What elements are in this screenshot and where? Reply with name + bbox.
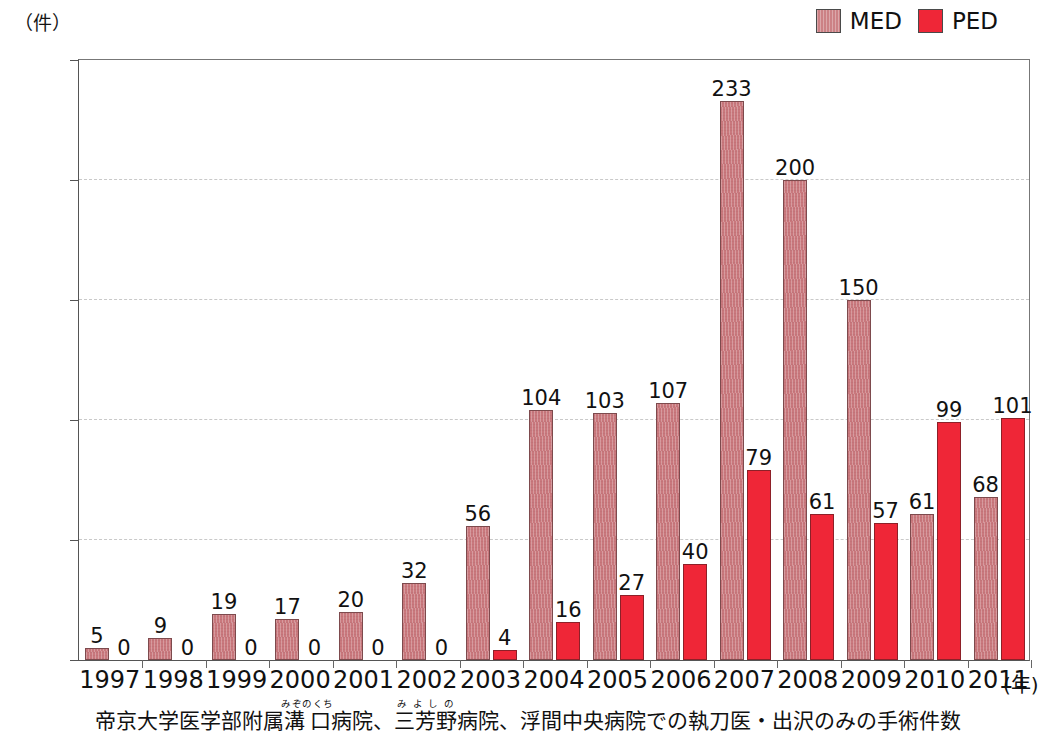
- bar-value-label: 150: [839, 278, 879, 299]
- bar-value-label: 27: [618, 573, 645, 594]
- bar-med: 9: [148, 638, 172, 660]
- bar-ped: 79: [747, 470, 771, 660]
- bar-group: 10416: [523, 60, 586, 660]
- bar-group: 10740: [650, 60, 713, 660]
- chart-legend: MED PED: [816, 9, 998, 33]
- x-axis-tick-label: 2000: [268, 666, 331, 694]
- caption-ruby-base-2: 三芳野: [394, 709, 457, 733]
- bar-med: 68: [974, 497, 998, 660]
- y-axis-tick-mark: [70, 60, 79, 61]
- x-axis-unit-label: (年): [1003, 669, 1039, 698]
- bar-med: 104: [529, 410, 553, 660]
- chart-caption: 帝京大学医学部附属溝口みぞのくち病院、三芳野みよしの病院、浮間中央病院での執刀医…: [0, 698, 1056, 734]
- x-axis-tick-label: 2005: [586, 666, 649, 694]
- x-axis-tick-label: 2003: [459, 666, 522, 694]
- bar-group: 15057: [841, 60, 904, 660]
- bar-value-label: 56: [464, 504, 491, 525]
- bar-value-label: 16: [555, 600, 582, 621]
- x-axis-tick-label: 1999: [205, 666, 268, 694]
- bar-value-label: 17: [274, 597, 301, 618]
- y-axis-tick-mark: [70, 540, 79, 541]
- caption-ruby-text-2: みよしの: [394, 698, 457, 709]
- bar-value-label: 200: [775, 158, 815, 179]
- x-axis-tick-label: 2008: [776, 666, 839, 694]
- x-axis-tick-label: 2010: [903, 666, 966, 694]
- caption-ruby-miyoshino: 三芳野みよしの: [394, 709, 457, 733]
- bar-value-label: 68: [972, 475, 999, 496]
- bar-med: 5: [85, 648, 109, 660]
- legend-swatch-ped-icon: [918, 9, 943, 33]
- y-axis-tick-mark: [70, 660, 79, 661]
- bar-med: 19: [212, 614, 236, 660]
- bar-value-label: 101: [992, 396, 1032, 417]
- bar-value-label: 61: [909, 492, 936, 513]
- y-axis-tick-mark: [70, 300, 79, 301]
- bar-ped: 61: [810, 514, 834, 660]
- bar-value-label: 40: [682, 542, 709, 563]
- bar-group: 10327: [587, 60, 650, 660]
- bar-group: 68101: [968, 60, 1031, 660]
- bar-value-label: 19: [211, 592, 238, 613]
- bar-group: 50: [79, 60, 142, 660]
- bar-value-label: 61: [809, 492, 836, 513]
- bar-med: 233: [720, 101, 744, 660]
- legend-item-med: MED: [816, 9, 902, 33]
- bar-med: 32: [402, 583, 426, 660]
- bar-value-label: 9: [154, 616, 167, 637]
- bar-med: 107: [656, 403, 680, 660]
- bar-value-label: 0: [181, 638, 194, 659]
- x-axis-tick-label: 1997: [78, 666, 141, 694]
- bar-value-label: 57: [872, 501, 899, 522]
- bar-value-label: 79: [745, 448, 772, 469]
- bar-group: 6199: [904, 60, 967, 660]
- bar-value-label: 104: [521, 388, 561, 409]
- bar-med: 150: [847, 300, 871, 660]
- bar-med: 56: [466, 526, 490, 660]
- bar-value-label: 0: [244, 638, 257, 659]
- bar-value-label: 5: [90, 626, 103, 647]
- bar-value-label: 99: [936, 400, 963, 421]
- bar-value-label: 0: [117, 638, 130, 659]
- bar-group: 200: [333, 60, 396, 660]
- bar-med: 103: [593, 413, 617, 660]
- caption-part-1: 帝京大学医学部附属: [95, 709, 284, 733]
- legend-swatch-med-icon: [816, 9, 841, 33]
- caption-part-3: 病院、浮間中央病院での執刀医・出沢のみの手術件数: [457, 709, 961, 733]
- bar-group: 90: [142, 60, 205, 660]
- bar-value-label: 103: [585, 391, 625, 412]
- x-axis-tick-label: 2001: [332, 666, 395, 694]
- caption-ruby-mizonokuchi: 溝口みぞのくち: [284, 709, 331, 733]
- bar-med: 17: [275, 619, 299, 660]
- bar-value-label: 0: [371, 638, 384, 659]
- bar-value-label: 0: [308, 638, 321, 659]
- x-axis-tick-label: 1998: [141, 666, 204, 694]
- x-axis-tick-mark: [1031, 660, 1032, 668]
- bar-value-label: 32: [401, 561, 428, 582]
- top-cropped-text: ・・ ・・: [86, 0, 206, 4]
- x-axis-tick-label: 2009: [840, 666, 903, 694]
- bar-group: 190: [206, 60, 269, 660]
- bar-ped: 27: [620, 595, 644, 660]
- y-axis-tick-mark: [70, 180, 79, 181]
- caption-ruby-base-1: 溝口: [281, 709, 334, 733]
- bar-ped: 99: [937, 422, 961, 660]
- bar-med: 20: [339, 612, 363, 660]
- bar-value-label: 107: [648, 381, 688, 402]
- caption-part-2: 病院、: [331, 709, 394, 733]
- legend-item-ped: PED: [918, 9, 998, 33]
- bar-ped: 4: [493, 650, 517, 660]
- bar-group: 170: [269, 60, 332, 660]
- x-axis-tick-label: 2007: [713, 666, 776, 694]
- bar-group: 23379: [714, 60, 777, 660]
- y-axis-tick-mark: [70, 420, 79, 421]
- legend-label-ped: PED: [952, 10, 998, 33]
- x-axis-tick-label: 2004: [522, 666, 585, 694]
- bar-med: 200: [783, 180, 807, 660]
- caption-ruby-text-1: みぞのくち: [281, 698, 334, 709]
- bar-value-label: 20: [337, 590, 364, 611]
- bar-ped: 16: [556, 622, 580, 660]
- bar-ped: 40: [683, 564, 707, 660]
- legend-label-med: MED: [850, 10, 902, 33]
- y-axis-unit-label: （件）: [14, 8, 71, 35]
- chart-page: ・・ ・・ （件） MED PED 5090190170200320564104…: [0, 0, 1056, 738]
